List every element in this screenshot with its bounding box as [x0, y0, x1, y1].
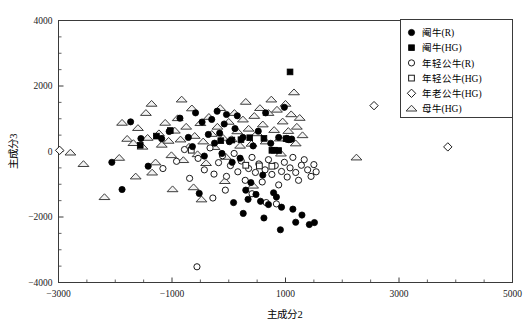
data-point-filled-circle	[223, 111, 229, 117]
data-point-open-circle	[201, 167, 207, 173]
x-tick-label: 3000	[390, 289, 409, 299]
data-point-filled-circle	[237, 155, 243, 161]
data-point-open-triangle	[188, 184, 199, 190]
data-point-filled-circle	[268, 140, 274, 146]
data-point-open-triangle	[147, 169, 158, 175]
data-point-filled-circle	[278, 204, 284, 210]
data-point-open-triangle	[201, 160, 212, 166]
x-axis-ticks	[59, 278, 513, 283]
x-axis-tick-labels: −3000−1000100030005000	[46, 289, 522, 299]
data-point-filled-circle	[257, 198, 263, 204]
data-point-open-triangle	[351, 154, 362, 160]
legend-marker-open-circle	[408, 60, 414, 66]
data-point-open-circle	[293, 169, 299, 175]
data-point-open-circle	[235, 169, 241, 175]
data-point-open-triangle	[286, 111, 297, 117]
data-point-filled-circle	[260, 172, 266, 178]
data-point-open-triangle	[289, 89, 300, 95]
data-point-open-circle	[186, 175, 192, 181]
data-point-open-triangle	[65, 149, 76, 155]
data-point-filled-circle	[290, 206, 296, 212]
data-point-open-triangle	[140, 110, 151, 116]
data-point-filled-square	[137, 142, 143, 148]
data-point-filled-circle	[230, 199, 236, 205]
data-point-filled-circle	[299, 212, 305, 218]
data-point-filled-circle	[214, 108, 220, 114]
data-point-filled-square	[261, 136, 267, 142]
y-tick-label: 4000	[34, 16, 53, 26]
data-point-open-circle	[252, 169, 258, 175]
data-point-open-triangle	[167, 186, 178, 192]
data-point-open-triangle	[117, 119, 128, 125]
data-point-open-triangle	[175, 136, 186, 142]
data-point-filled-circle	[261, 215, 267, 221]
data-point-filled-circle	[138, 135, 144, 141]
data-point-open-circle	[281, 159, 287, 165]
data-point-open-circle	[211, 171, 217, 177]
data-point-open-triangle	[78, 161, 89, 167]
data-point-open-square	[243, 162, 249, 168]
data-point-filled-circle	[128, 119, 134, 125]
data-point-filled-circle	[311, 219, 317, 225]
legend-label: 阉牛(HG)	[422, 42, 462, 54]
data-point-open-circle	[222, 187, 228, 193]
data-point-open-triangle	[240, 98, 251, 104]
x-axis-title: 主成分2	[267, 309, 302, 320]
data-point-open-square	[257, 163, 263, 169]
data-point-open-circle	[313, 169, 319, 175]
data-point-open-diamond	[55, 146, 63, 154]
x-tick-label: −3000	[46, 289, 71, 299]
legend-label: 年轻公牛(R)	[422, 58, 475, 70]
data-point-open-circle	[242, 177, 248, 183]
x-tick-label: −1000	[160, 289, 185, 299]
data-point-filled-square	[247, 135, 253, 141]
data-point-open-triangle	[255, 105, 266, 111]
data-point-filled-circle	[221, 121, 227, 127]
legend-box	[401, 20, 513, 118]
data-point-open-circle	[295, 177, 301, 183]
data-point-filled-square	[229, 137, 235, 143]
data-point-filled-circle	[250, 143, 256, 149]
data-point-open-triangle	[249, 113, 260, 119]
data-point-filled-circle	[211, 140, 217, 146]
data-point-filled-square	[286, 137, 292, 143]
data-point-open-circle	[290, 154, 296, 160]
data-point-open-circle	[287, 165, 293, 171]
data-point-open-triangle	[160, 119, 171, 125]
chart-legend: 阉牛(R)阉牛(HG)年轻公牛(R)年轻公牛(HG)年老公牛(HG)母牛(HG)	[401, 20, 513, 118]
data-point-filled-circle	[248, 180, 254, 186]
data-point-filled-circle	[177, 115, 183, 121]
data-point-filled-circle	[192, 110, 198, 116]
data-point-filled-circle	[263, 110, 269, 116]
data-point-open-circle	[215, 160, 221, 166]
data-point-open-triangle	[133, 125, 144, 131]
data-point-open-diamond	[370, 101, 378, 109]
y-tick-label: −4000	[28, 278, 53, 288]
data-point-open-triangle	[291, 123, 302, 129]
data-point-open-circle	[276, 182, 282, 188]
y-axis-tick-labels: 400020000−2000−4000	[28, 16, 53, 288]
data-point-filled-circle	[199, 119, 205, 125]
data-point-open-triangle	[166, 152, 177, 158]
data-point-open-circle	[160, 165, 166, 171]
data-point-open-triangle	[235, 142, 246, 148]
data-point-open-circle	[195, 155, 201, 161]
data-point-filled-square	[218, 138, 224, 144]
data-point-open-triangle	[297, 132, 308, 138]
data-point-open-circle	[301, 157, 307, 163]
data-points-layer	[55, 69, 452, 270]
data-point-open-circle	[223, 173, 229, 179]
data-point-filled-circle	[217, 130, 223, 136]
data-point-open-triangle	[198, 138, 209, 144]
data-point-filled-circle	[219, 150, 225, 156]
data-point-filled-circle	[273, 194, 279, 200]
data-point-filled-circle	[196, 190, 202, 196]
data-point-open-square	[269, 163, 275, 169]
data-point-open-triangle	[269, 127, 280, 133]
legend-marker-filled-square	[409, 45, 415, 51]
data-point-open-triangle	[196, 196, 207, 202]
x-tick-label: 1000	[276, 289, 295, 299]
scatter-plot-figure: −3000−1000100030005000 400020000−2000−40…	[0, 0, 532, 332]
plot-canvas: −3000−1000100030005000 400020000−2000−40…	[0, 0, 532, 332]
data-point-open-diamond	[444, 143, 452, 151]
